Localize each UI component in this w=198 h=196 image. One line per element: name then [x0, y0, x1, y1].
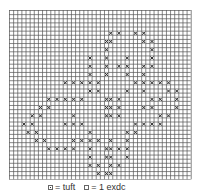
tuft-mark-icon [158, 81, 162, 85]
tuft-mark-icon [125, 147, 129, 151]
tuft-mark-icon [125, 64, 129, 68]
tuft-mark-icon [158, 122, 162, 126]
tuft-mark-icon [125, 139, 129, 143]
tuft-mark-icon [134, 130, 138, 134]
empty-cell-icon [84, 185, 89, 190]
tuft-mark-icon [109, 147, 113, 151]
tuft-mark-icon [175, 106, 179, 110]
tuft-mark-icon [117, 147, 121, 151]
tuft-mark-icon [88, 73, 92, 77]
tuft-mark-icon [142, 64, 146, 68]
tuft-mark-icon [63, 81, 67, 85]
tuft-mark-icon [142, 73, 146, 77]
tuft-mark-icon [63, 122, 67, 126]
tuft-mark-icon [30, 114, 34, 118]
tuft-mark-icon [63, 147, 67, 151]
tuft-mark-icon [105, 106, 109, 110]
tuft-mark-icon [72, 97, 76, 101]
legend-tuft-label: = tuft [55, 182, 75, 192]
tuft-mark-icon [105, 64, 109, 68]
tuft-mark-icon [109, 114, 113, 118]
tuft-mark-icon [117, 31, 121, 35]
tuft-mark-icon [88, 163, 92, 167]
tuft-mark-icon [96, 139, 100, 143]
tuft-mark-icon [105, 97, 109, 101]
tuft-mark-icon [117, 97, 121, 101]
tuft-cell-icon [48, 185, 53, 190]
tuft-mark-icon [150, 106, 154, 110]
tuft-mark-icon [109, 155, 113, 159]
tuft-mark-icon [63, 97, 67, 101]
tuft-mark-icon [88, 81, 92, 85]
tuft-mark-icon [134, 31, 138, 35]
tuft-mark-icon [39, 114, 43, 118]
tuft-mark-icon [150, 97, 154, 101]
tuft-mark-icon [80, 81, 84, 85]
tuft-mark-icon [142, 89, 146, 93]
tuft-mark-icon [142, 40, 146, 44]
tuft-mark-icon [72, 122, 76, 126]
tuft-mark-icon [55, 147, 59, 151]
tuft-mark-icon [34, 130, 38, 134]
tuft-mark-icon [117, 64, 121, 68]
chart-legend: = tuft = 1 exdc [48, 182, 135, 192]
tuft-mark-icon [167, 114, 171, 118]
tuft-mark-icon [109, 172, 113, 176]
crochet-chart-grid [9, 10, 192, 184]
tuft-mark-icon [30, 122, 34, 126]
tuft-mark-icon [167, 81, 171, 85]
tuft-mark-icon [88, 89, 92, 93]
tuft-mark-icon [47, 97, 51, 101]
tuft-mark-icon [175, 89, 179, 93]
tuft-mark-icon [34, 139, 38, 143]
tuft-mark-icon [109, 40, 113, 44]
tuft-mark-icon [109, 106, 113, 110]
tuft-mark-icon [134, 122, 138, 126]
legend-exdc: = 1 exdc [84, 182, 125, 192]
legend-exdc-label: = 1 exdc [91, 182, 125, 192]
tuft-mark-icon [72, 139, 76, 143]
tuft-mark-icon [117, 163, 121, 167]
tuft-mark-icon [142, 31, 146, 35]
tuft-mark-icon [134, 81, 138, 85]
tuft-mark-icon [109, 139, 113, 143]
tuft-mark-icon [150, 48, 154, 52]
tuft-mark-icon [72, 114, 76, 118]
tuft-mark-icon [109, 97, 113, 101]
tuft-mark-icon [105, 147, 109, 151]
legend-tuft: = tuft [48, 182, 75, 192]
tuft-mark-icon [43, 139, 47, 143]
tuft-mark-icon [125, 89, 129, 93]
tuft-mark-icon [96, 81, 100, 85]
tuft-mark-icon [150, 40, 154, 44]
tuft-mark-icon [72, 81, 76, 85]
tuft-mark-icon [158, 114, 162, 118]
tuft-mark-icon [72, 147, 76, 151]
tuft-mark-icon [105, 114, 109, 118]
tuft-mark-icon [88, 147, 92, 151]
tuft-mark-icon [158, 97, 162, 101]
tuft-mark-icon [88, 56, 92, 60]
tuft-mark-icon [109, 31, 113, 35]
tuft-mark-icon [88, 139, 92, 143]
tuft-mark-icon [125, 155, 129, 159]
tuft-mark-icon [105, 40, 109, 44]
tuft-mark-icon [80, 122, 84, 126]
tuft-mark-icon [88, 64, 92, 68]
tuft-mark-icon [80, 139, 84, 143]
tuft-mark-icon [150, 122, 154, 126]
tuft-mark-icon [47, 106, 51, 110]
tuft-mark-icon [22, 122, 26, 126]
tuft-mark-icon [117, 106, 121, 110]
tuft-mark-icon [105, 48, 109, 52]
grid-svg [9, 10, 192, 180]
tuft-mark-icon [105, 155, 109, 159]
tuft-mark-icon [39, 106, 43, 110]
tuft-mark-icon [175, 97, 179, 101]
tuft-mark-icon [150, 56, 154, 60]
tuft-mark-icon [96, 89, 100, 93]
tuft-mark-icon [142, 106, 146, 110]
tuft-mark-icon [96, 172, 100, 176]
tuft-mark-icon [105, 172, 109, 176]
tuft-mark-icon [125, 73, 129, 77]
